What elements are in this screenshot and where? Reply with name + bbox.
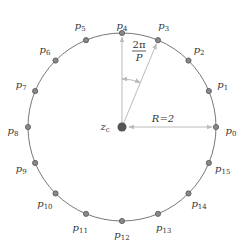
point-label-12: p12	[114, 229, 129, 242]
point-label-13: p13	[156, 222, 171, 235]
point-0	[213, 124, 218, 129]
point-10	[53, 191, 58, 196]
point-7	[33, 88, 38, 93]
point-label-8: p8	[8, 125, 19, 138]
point-11	[83, 211, 88, 216]
point-label-14: p14	[191, 198, 207, 211]
angle-label: 2π P	[132, 39, 146, 63]
point-12	[119, 218, 124, 223]
point-9	[33, 160, 38, 165]
radius-label: R=2	[151, 113, 174, 124]
point-14	[186, 191, 191, 196]
point-3	[155, 38, 160, 43]
point-8	[25, 124, 30, 129]
point-label-4: p4	[117, 20, 128, 33]
center-point	[118, 123, 127, 132]
point-5	[83, 38, 88, 43]
point-label-15: p15	[215, 163, 230, 176]
center-label: zc	[99, 121, 109, 134]
angle-arc	[122, 79, 140, 83]
point-label-5: p5	[75, 20, 86, 33]
point-13	[155, 211, 160, 216]
point-label-0: p0	[226, 125, 237, 138]
point-label-2: p2	[194, 44, 205, 57]
point-6	[53, 58, 58, 63]
point-label-3: p3	[158, 20, 169, 33]
point-label-1: p1	[217, 79, 228, 92]
angle-numerator: 2π	[133, 39, 146, 50]
point-15	[206, 160, 211, 165]
circle-diagram: p0p1p2p3p4p5p6p7p8p9p10p11p12p13p14p15 z…	[0, 0, 243, 246]
point-label-11: p11	[73, 222, 88, 235]
point-label-9: p9	[16, 163, 27, 176]
point-label-10: p10	[37, 198, 52, 211]
angle-denominator: P	[135, 52, 143, 63]
point-1	[206, 88, 211, 93]
point-label-7: p7	[16, 79, 27, 92]
point-label-6: p6	[39, 44, 50, 57]
point-2	[186, 58, 191, 63]
